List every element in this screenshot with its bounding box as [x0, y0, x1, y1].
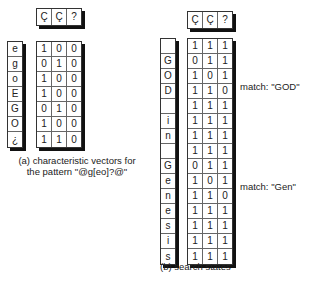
character-label: e	[161, 174, 175, 189]
bit-cell: 1	[218, 69, 232, 84]
bit-cell: 1	[218, 234, 232, 249]
bit-cell: 1	[203, 219, 218, 234]
bit-cell: 1	[37, 87, 52, 102]
bit-cell: 0	[218, 84, 232, 99]
bit-cell: 1	[188, 84, 203, 99]
bit-cell: 0	[52, 117, 67, 132]
character-label: g	[8, 57, 22, 72]
character-label: e	[161, 204, 175, 219]
bit-cell: 1	[188, 234, 203, 249]
bit-cell: 1	[203, 99, 218, 114]
character-label	[161, 144, 175, 159]
bit-cell: 1	[188, 204, 203, 219]
bit-cell: 0	[52, 42, 67, 57]
bit-cell: 1	[218, 99, 232, 114]
character-label: n	[161, 129, 175, 144]
bit-cell: 0	[67, 117, 81, 132]
bit-cell: 1	[203, 39, 218, 54]
character-label: G	[161, 159, 175, 174]
bit-cell: 1	[203, 84, 218, 99]
header-symbol: ?	[218, 12, 232, 28]
panel-a-header-symbols: Ç Ç ?	[36, 8, 82, 26]
bit-cell: 1	[37, 117, 52, 132]
bit-cell: 1	[52, 132, 67, 147]
bit-cell: 1	[218, 159, 232, 174]
bit-cell: 1	[188, 219, 203, 234]
bit-cell: 1	[37, 72, 52, 87]
bit-cell: 1	[203, 204, 218, 219]
character-label: s	[161, 219, 175, 234]
bit-cell: 1	[188, 39, 203, 54]
panel-b-caption: (b) search states	[160, 261, 270, 272]
character-label: i	[161, 114, 175, 129]
character-label: ¿	[8, 132, 22, 147]
bit-cell: 1	[37, 42, 52, 57]
character-label: E	[8, 87, 22, 102]
bit-cell: 1	[203, 54, 218, 69]
caption-line-2: the pattern "@g[eo]?@"	[2, 166, 152, 177]
bit-cell: 1	[218, 174, 232, 189]
bit-cell: 1	[52, 102, 67, 117]
bit-cell: 1	[203, 234, 218, 249]
bit-cell: 0	[188, 159, 203, 174]
bit-cell: 0	[52, 72, 67, 87]
header-symbol: Ç	[37, 9, 52, 25]
bit-cell: 1	[203, 129, 218, 144]
bit-cell: 1	[218, 114, 232, 129]
bit-cell: 1	[188, 174, 203, 189]
bit-cell: 0	[67, 57, 81, 72]
header-symbol: Ç	[52, 9, 67, 25]
character-label: G	[8, 102, 22, 117]
caption-line-1: (a) characteristic vectors for	[2, 155, 152, 166]
bit-cell: 1	[218, 204, 232, 219]
bit-cell: 0	[203, 174, 218, 189]
bit-cell: 0	[203, 69, 218, 84]
bit-cell: 0	[67, 42, 81, 57]
panel-b-input-text: GODinGenesis	[160, 38, 176, 265]
character-label: n	[161, 189, 175, 204]
character-label: O	[8, 117, 22, 132]
bit-cell: 1	[218, 129, 232, 144]
panel-b-search-states: 1110111011101111111111110111011101111111…	[187, 38, 233, 265]
character-label	[161, 99, 175, 114]
character-label: D	[161, 84, 175, 99]
bit-cell: 1	[188, 69, 203, 84]
character-label: O	[161, 69, 175, 84]
character-label: i	[161, 234, 175, 249]
bit-cell: 1	[218, 39, 232, 54]
character-label	[161, 39, 175, 54]
bit-cell: 1	[188, 114, 203, 129]
bit-cell: 0	[37, 102, 52, 117]
bit-cell: 1	[218, 219, 232, 234]
panel-a-characteristic-vectors: 100010100100010100110	[36, 41, 82, 148]
bit-cell: 1	[188, 129, 203, 144]
match-god-annotation: match: "GOD"	[240, 81, 300, 92]
header-symbol: Ç	[188, 12, 203, 28]
bit-cell: 0	[52, 87, 67, 102]
bit-cell: 1	[203, 114, 218, 129]
bit-cell: 0	[188, 54, 203, 69]
character-label: e	[8, 42, 22, 57]
bit-cell: 0	[67, 87, 81, 102]
character-label: o	[8, 72, 22, 87]
match-gen-annotation: match: "Gen"	[240, 181, 296, 192]
bit-cell: 0	[37, 57, 52, 72]
header-symbol: ?	[67, 9, 81, 25]
bit-cell: 0	[67, 132, 81, 147]
bit-cell: 1	[218, 54, 232, 69]
bit-cell: 1	[218, 144, 232, 159]
bit-cell: 0	[218, 189, 232, 204]
bit-cell: 1	[188, 144, 203, 159]
panel-a-character-labels: egoEGO¿	[7, 41, 23, 148]
bit-cell: 1	[188, 189, 203, 204]
bit-cell: 1	[203, 144, 218, 159]
bit-cell: 1	[188, 99, 203, 114]
header-symbol: Ç	[203, 12, 218, 28]
character-label: G	[161, 54, 175, 69]
bit-cell: 1	[37, 132, 52, 147]
bit-cell: 0	[67, 72, 81, 87]
bit-cell: 1	[52, 57, 67, 72]
bit-cell: 1	[203, 189, 218, 204]
panel-b-header-symbols: Ç Ç ?	[187, 11, 233, 29]
panel-a-caption: (a) characteristic vectors for the patte…	[2, 155, 152, 177]
